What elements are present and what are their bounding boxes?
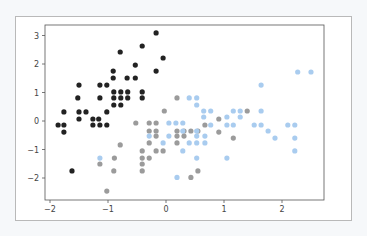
y-tick-label: 0 bbox=[34, 117, 39, 126]
data-point bbox=[194, 156, 199, 161]
data-point bbox=[83, 109, 88, 114]
data-point bbox=[97, 95, 102, 100]
data-point bbox=[140, 148, 145, 153]
data-point bbox=[69, 168, 74, 173]
y-tick-label: −1 bbox=[27, 146, 39, 155]
data-point bbox=[104, 189, 109, 194]
data-point bbox=[188, 175, 193, 180]
data-point bbox=[231, 122, 236, 127]
data-point bbox=[174, 175, 179, 180]
data-point bbox=[161, 148, 166, 153]
data-point bbox=[97, 83, 102, 88]
data-point bbox=[140, 168, 145, 173]
data-point bbox=[111, 89, 116, 94]
data-point bbox=[238, 114, 243, 119]
data-point bbox=[231, 136, 236, 141]
data-point bbox=[118, 142, 123, 147]
data-point bbox=[201, 108, 206, 113]
data-point bbox=[194, 102, 199, 107]
y-tick-label: 2 bbox=[34, 60, 39, 69]
y-tick-label: 3 bbox=[34, 32, 39, 41]
data-point bbox=[96, 116, 101, 121]
data-point bbox=[224, 114, 229, 119]
data-point bbox=[166, 134, 171, 139]
data-point bbox=[97, 156, 102, 161]
data-point bbox=[208, 122, 213, 127]
data-point bbox=[140, 43, 145, 48]
x-axis-ticks: −2−1012 bbox=[44, 200, 284, 214]
data-point bbox=[166, 120, 171, 125]
data-point bbox=[292, 122, 297, 127]
y-tick-label: −2 bbox=[27, 174, 39, 183]
data-point bbox=[154, 120, 159, 125]
data-point bbox=[173, 120, 178, 125]
data-point bbox=[140, 156, 145, 161]
data-point bbox=[216, 116, 221, 121]
data-point bbox=[90, 122, 95, 127]
data-point bbox=[187, 140, 192, 145]
data-point bbox=[161, 140, 166, 145]
data-point bbox=[180, 148, 185, 153]
data-point bbox=[111, 168, 116, 173]
data-point bbox=[202, 134, 207, 139]
data-point bbox=[195, 168, 200, 173]
data-point bbox=[201, 114, 206, 119]
figure-frame: 3210−1−2 −2−1012 bbox=[15, 16, 352, 221]
data-point bbox=[111, 69, 116, 74]
data-point bbox=[61, 122, 66, 127]
data-point bbox=[147, 120, 152, 125]
data-point bbox=[61, 130, 66, 135]
data-point bbox=[97, 161, 102, 166]
data-point bbox=[194, 128, 199, 133]
data-point bbox=[104, 122, 109, 127]
data-point bbox=[181, 134, 186, 139]
data-point bbox=[147, 128, 152, 133]
data-point bbox=[125, 89, 130, 94]
data-point bbox=[194, 140, 199, 145]
data-point bbox=[56, 122, 61, 127]
data-point bbox=[118, 49, 123, 54]
x-tick-label: 0 bbox=[163, 205, 168, 214]
data-point bbox=[154, 148, 159, 153]
data-point bbox=[147, 140, 152, 145]
data-point bbox=[61, 109, 66, 114]
data-point bbox=[111, 102, 116, 107]
data-point bbox=[174, 128, 179, 133]
data-point bbox=[259, 122, 264, 127]
data-point bbox=[140, 95, 145, 100]
data-point bbox=[140, 89, 145, 94]
data-point bbox=[295, 69, 300, 74]
data-point bbox=[75, 95, 80, 100]
data-point bbox=[133, 120, 138, 125]
data-point bbox=[180, 120, 185, 125]
data-point bbox=[76, 83, 81, 88]
data-point bbox=[285, 122, 290, 127]
data-point bbox=[118, 95, 123, 100]
data-point bbox=[76, 109, 81, 114]
data-point bbox=[292, 136, 297, 141]
data-point bbox=[266, 128, 271, 133]
data-point bbox=[259, 108, 264, 113]
data-point bbox=[188, 128, 193, 133]
data-point bbox=[154, 69, 159, 74]
data-point bbox=[154, 134, 159, 139]
data-point bbox=[194, 134, 199, 139]
data-point bbox=[111, 95, 116, 100]
data-point bbox=[180, 128, 185, 133]
data-point bbox=[147, 134, 152, 139]
data-point bbox=[154, 128, 159, 133]
data-point bbox=[308, 69, 313, 74]
x-tick-label: −1 bbox=[102, 205, 114, 214]
data-point bbox=[133, 63, 138, 68]
data-point bbox=[272, 136, 277, 141]
data-point bbox=[97, 122, 102, 127]
data-point bbox=[125, 95, 130, 100]
data-point bbox=[187, 95, 192, 100]
data-point bbox=[224, 122, 229, 127]
data-point bbox=[161, 55, 166, 60]
y-tick-label: 1 bbox=[34, 89, 39, 98]
data-point bbox=[104, 83, 109, 88]
data-point bbox=[112, 156, 117, 161]
data-point bbox=[224, 156, 229, 161]
data-point bbox=[76, 116, 81, 121]
